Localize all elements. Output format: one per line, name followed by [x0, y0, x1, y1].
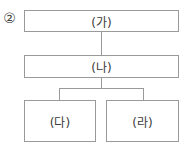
option-number-label: ②: [2, 11, 17, 26]
connector-na-branch: [101, 78, 102, 88]
connector-ga-na: [101, 32, 102, 55]
connector-branch-ra: [143, 88, 144, 100]
node-ga-box: (가): [24, 10, 179, 32]
connector-branch-horizontal: [59, 88, 144, 89]
node-na-label: (나): [91, 58, 111, 75]
node-ra-label: (라): [132, 113, 152, 130]
node-na-box: (나): [24, 55, 179, 78]
node-ga-label: (가): [91, 13, 111, 30]
node-ra-box: (라): [106, 100, 179, 142]
node-da-label: (다): [50, 113, 70, 130]
node-da-box: (다): [24, 100, 96, 142]
connector-branch-da: [59, 88, 60, 100]
